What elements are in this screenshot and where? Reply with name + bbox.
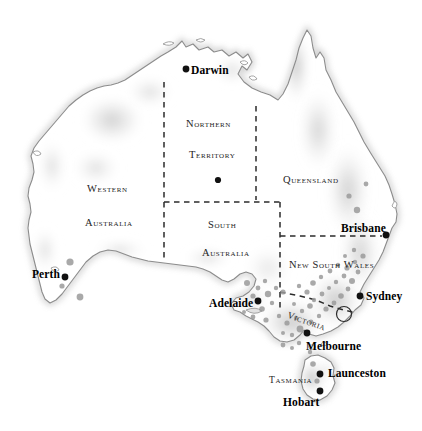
site-dot: [327, 286, 331, 290]
site-dot: [259, 306, 265, 312]
site-dot: [297, 341, 301, 345]
city-launceston-dot: [317, 371, 324, 378]
site-dot: [281, 331, 285, 335]
site-dot: [265, 291, 271, 297]
site-dot: [308, 350, 312, 354]
city-adelaide-dot: [255, 298, 262, 305]
site-dot: [290, 333, 294, 337]
site-dot: [297, 284, 301, 288]
site-dot: [294, 316, 298, 320]
site-dot: [320, 292, 325, 297]
site-dot: [349, 278, 355, 284]
site-dot: [332, 301, 337, 306]
site-dot: [297, 326, 304, 333]
site-dot: [300, 309, 304, 313]
site-dot: [290, 346, 294, 350]
site-dot: [77, 294, 84, 301]
site-dot: [336, 263, 340, 267]
site-dot: [250, 293, 255, 298]
site-dot: [251, 315, 256, 320]
site-dot: [284, 320, 289, 325]
site-dot: [328, 269, 333, 274]
site-dot: [66, 258, 73, 265]
site-dot: [281, 343, 286, 348]
site-dot: [338, 293, 344, 299]
site-dot: [307, 303, 313, 309]
site-dot: [323, 306, 328, 311]
site-dot: [309, 320, 314, 325]
site-dot: [353, 260, 357, 264]
site-dot: [277, 314, 281, 318]
site-dot: [263, 279, 267, 283]
site-dot: [352, 248, 356, 252]
city-hobart-dot: [317, 388, 324, 395]
site-dot: [346, 193, 351, 198]
site-dot: [59, 283, 64, 288]
site-dot: [314, 378, 319, 383]
site-dot: [344, 265, 349, 270]
site-dot: [292, 302, 296, 306]
site-dot: [317, 314, 321, 318]
dot-alice-springs: [215, 177, 221, 183]
city-sydney-dot: [357, 293, 364, 300]
site-dot: [263, 317, 268, 322]
site-dot: [270, 301, 274, 305]
australia-map: Northern Territory Western Australia Sou…: [0, 0, 422, 431]
site-dot: [304, 289, 309, 294]
site-dot: [274, 286, 278, 290]
city-darwin-dot: [183, 66, 190, 73]
city-melbourne-dot: [304, 330, 311, 337]
city-perth-dot: [62, 274, 69, 281]
site-dot: [354, 207, 360, 213]
site-dot: [310, 280, 316, 286]
site-dot: [364, 182, 369, 187]
site-dot: [334, 280, 338, 284]
site-dot: [310, 361, 316, 367]
site-dot: [244, 280, 250, 286]
site-dot: [360, 253, 365, 258]
city-brisbane-dot: [383, 232, 390, 239]
bass-strait-islands: [309, 342, 327, 349]
site-dot: [319, 275, 323, 279]
site-dot: [256, 286, 261, 291]
site-dot: [312, 298, 316, 302]
site-dot: [343, 254, 347, 258]
site-dot: [280, 289, 285, 294]
site-dot: [346, 287, 351, 292]
site-dot: [242, 310, 246, 314]
site-dot: [356, 270, 361, 275]
map-canvas: [0, 0, 422, 431]
site-dot: [342, 274, 347, 279]
